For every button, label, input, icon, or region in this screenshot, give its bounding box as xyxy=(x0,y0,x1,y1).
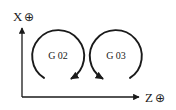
g02-label: G 02 xyxy=(48,50,68,61)
g03-arc-group: G 03 xyxy=(90,30,142,78)
z-axis-label: Z xyxy=(145,90,153,105)
x-axis-label: X xyxy=(13,9,23,24)
g03-label: G 03 xyxy=(106,50,126,61)
circled-plus-icon: ⊕ xyxy=(155,91,165,105)
diagram-svg: X ⊕ Z ⊕ G 02 G 03 xyxy=(0,0,176,110)
circled-plus-icon: ⊕ xyxy=(24,10,34,24)
diagram-canvas: X ⊕ Z ⊕ G 02 G 03 xyxy=(0,0,176,110)
g02-arc-group: G 02 xyxy=(32,30,84,78)
